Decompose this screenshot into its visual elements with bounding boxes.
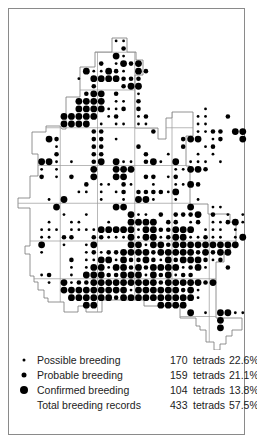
confirmed-breeding-dot (120, 204, 127, 211)
confirmed-breeding-dot (187, 181, 194, 188)
possible-breeding-dot (115, 40, 118, 43)
possible-breeding-dot (197, 153, 200, 156)
possible-breeding-dot (219, 160, 222, 163)
confirmed-breeding-dot (135, 294, 142, 301)
confirmed-breeding-dot (61, 287, 68, 294)
probable-breeding-dot (218, 137, 223, 142)
small-dot-icon (23, 359, 26, 362)
probable-breeding-dot (166, 220, 171, 225)
possible-breeding-dot (204, 130, 207, 133)
possible-breeding-dot (40, 228, 43, 231)
probable-breeding-dot (181, 144, 186, 149)
probable-breeding-dot (159, 280, 164, 285)
possible-breeding-dot (55, 228, 58, 231)
confirmed-breeding-dot (135, 272, 142, 279)
probable-breeding-dot (188, 265, 193, 270)
possible-breeding-dot (70, 228, 73, 231)
probable-breeding-dot (181, 137, 186, 142)
confirmed-breeding-dot (187, 204, 194, 211)
possible-breeding-dot (212, 138, 215, 141)
confirmed-breeding-dot (120, 294, 127, 301)
probable-breeding-dot (144, 114, 149, 119)
confirmed-breeding-dot (83, 121, 90, 128)
confirmed-breeding-dot (157, 264, 164, 271)
confirmed-breeding-dot (210, 241, 217, 248)
legend-count: 170 (170, 353, 188, 368)
possible-breeding-dot (85, 243, 88, 246)
probable-breeding-dot (121, 84, 126, 89)
possible-breeding-dot (115, 258, 118, 261)
confirmed-breeding-dot (180, 294, 187, 301)
probable-breeding-dot (211, 212, 216, 217)
legend-unit: tetrads (193, 398, 225, 413)
possible-breeding-dot (70, 221, 73, 224)
confirmed-breeding-dot (46, 136, 53, 143)
probable-breeding-dot (99, 137, 104, 142)
possible-breeding-dot (226, 213, 229, 216)
possible-breeding-dot (204, 115, 207, 118)
confirmed-breeding-dot (90, 287, 97, 294)
confirmed-breeding-dot (128, 83, 135, 90)
confirmed-breeding-dot (239, 136, 246, 143)
probable-breeding-dot (144, 265, 149, 270)
possible-breeding-dot (48, 236, 51, 239)
probable-breeding-dot (226, 265, 231, 270)
probable-breeding-dot (144, 159, 149, 164)
legend-count: 433 (170, 398, 188, 413)
confirmed-breeding-dot (98, 75, 105, 82)
confirmed-breeding-dot (172, 241, 179, 248)
confirmed-breeding-dot (217, 309, 224, 316)
confirmed-breeding-dot (83, 105, 90, 112)
possible-breeding-dot (115, 138, 118, 141)
confirmed-breeding-dot (120, 272, 127, 279)
confirmed-breeding-dot (113, 287, 120, 294)
probable-breeding-dot (226, 220, 231, 225)
confirmed-breeding-dot (98, 272, 105, 279)
confirmed-breeding-dot (61, 196, 68, 203)
probable-breeding-dot (166, 242, 171, 247)
probable-breeding-dot (121, 190, 126, 195)
confirmed-breeding-dot (232, 241, 239, 248)
possible-breeding-dot (241, 311, 244, 314)
possible-breeding-dot (77, 191, 80, 194)
legend-percent: 22.6% (229, 353, 257, 368)
confirmed-breeding-dot (90, 279, 97, 286)
possible-breeding-dot (197, 130, 200, 133)
probable-breeding-dot (173, 175, 178, 180)
confirmed-breeding-dot (143, 226, 150, 233)
confirmed-breeding-dot (172, 302, 179, 309)
confirmed-breeding-dot (75, 287, 82, 294)
legend-count: 104 (170, 383, 188, 398)
legend-count: 159 (170, 368, 188, 383)
confirmed-breeding-dot (195, 136, 202, 143)
confirmed-breeding-dot (172, 226, 179, 233)
confirmed-breeding-dot (180, 226, 187, 233)
confirmed-breeding-dot (90, 173, 97, 180)
possible-breeding-dot (189, 236, 192, 239)
probable-breeding-dot (136, 258, 141, 263)
confirmed-breeding-dot (143, 287, 150, 294)
probable-breeding-dot (188, 273, 193, 278)
probable-breeding-dot (121, 46, 126, 51)
confirmed-breeding-dot (75, 105, 82, 112)
confirmed-breeding-dot (180, 279, 187, 286)
possible-breeding-dot (145, 213, 148, 216)
probable-breeding-dot (39, 175, 44, 180)
legend-label: Total breeding records (37, 398, 141, 413)
confirmed-breeding-dot (165, 272, 172, 279)
possible-breeding-dot (130, 160, 133, 163)
possible-breeding-dot (197, 115, 200, 118)
possible-breeding-dot (212, 228, 215, 231)
possible-breeding-dot (100, 198, 103, 201)
possible-breeding-dot (115, 62, 118, 65)
probable-breeding-dot (136, 190, 141, 195)
confirmed-breeding-dot (90, 98, 97, 105)
probable-breeding-dot (114, 114, 119, 119)
probable-breeding-dot (226, 114, 231, 119)
probable-breeding-dot (99, 235, 104, 240)
legend-unit: tetrads (193, 368, 225, 383)
probable-breeding-dot (203, 167, 208, 172)
possible-breeding-dot (85, 251, 88, 254)
possible-breeding-dot (182, 168, 185, 171)
confirmed-breeding-dot (187, 287, 194, 294)
